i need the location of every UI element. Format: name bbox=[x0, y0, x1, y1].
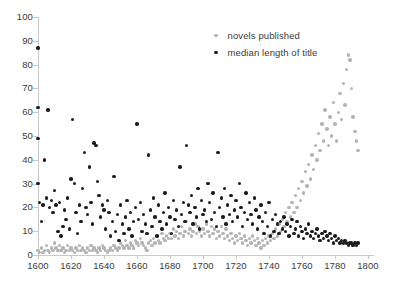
data-point bbox=[315, 227, 318, 230]
data-point bbox=[71, 118, 74, 121]
data-point bbox=[76, 232, 79, 235]
data-point bbox=[185, 144, 188, 147]
y-tick-70 bbox=[33, 88, 38, 89]
data-point bbox=[48, 206, 51, 209]
data-point bbox=[266, 241, 269, 244]
data-point bbox=[193, 206, 196, 209]
data-point bbox=[83, 151, 86, 154]
data-point bbox=[196, 187, 199, 190]
data-point bbox=[221, 232, 224, 235]
data-point bbox=[117, 239, 120, 242]
legend-item-median-length-of-title[interactable]: median length of title bbox=[214, 44, 317, 61]
data-point bbox=[84, 251, 87, 254]
data-point bbox=[160, 227, 163, 230]
data-point bbox=[297, 234, 300, 237]
data-point bbox=[180, 213, 183, 216]
data-point bbox=[238, 182, 241, 185]
data-point bbox=[254, 208, 257, 211]
data-point bbox=[130, 234, 133, 237]
x-tick-1640 bbox=[104, 255, 105, 259]
data-point bbox=[158, 241, 161, 244]
data-point bbox=[251, 234, 254, 237]
data-point bbox=[323, 108, 326, 111]
data-point bbox=[45, 244, 48, 247]
legend-swatch-novels-published bbox=[214, 34, 218, 38]
data-point bbox=[330, 134, 333, 137]
data-point bbox=[201, 213, 204, 216]
data-point bbox=[203, 208, 206, 211]
data-point bbox=[328, 115, 331, 118]
x-axis-line bbox=[38, 255, 374, 256]
data-point bbox=[246, 218, 249, 221]
data-point bbox=[89, 201, 92, 204]
data-point bbox=[241, 225, 244, 228]
data-point bbox=[200, 199, 203, 202]
data-point bbox=[147, 153, 150, 156]
data-point bbox=[69, 177, 72, 180]
data-point bbox=[251, 222, 254, 225]
data-point bbox=[104, 227, 107, 230]
data-point bbox=[41, 203, 44, 206]
data-point bbox=[157, 203, 160, 206]
data-point bbox=[340, 118, 343, 121]
data-point bbox=[116, 213, 119, 216]
data-point bbox=[101, 203, 104, 206]
data-point bbox=[221, 215, 224, 218]
data-point bbox=[177, 225, 180, 228]
data-point bbox=[351, 115, 354, 118]
data-point bbox=[309, 177, 312, 180]
data-point bbox=[78, 203, 81, 206]
x-tick-1660 bbox=[137, 255, 138, 259]
y-axis-label-0: 0 bbox=[5, 250, 33, 260]
legend-label-novels-published: novels published bbox=[228, 30, 300, 41]
data-point bbox=[163, 191, 166, 194]
x-axis-label-1800: 1800 bbox=[348, 261, 388, 271]
data-point bbox=[150, 225, 153, 228]
data-point bbox=[66, 196, 69, 199]
y-axis-label-10: 10 bbox=[5, 226, 33, 236]
data-point bbox=[233, 208, 236, 211]
data-point bbox=[295, 206, 298, 209]
data-point bbox=[211, 191, 214, 194]
data-point bbox=[224, 222, 227, 225]
data-point bbox=[310, 153, 313, 156]
data-point bbox=[96, 180, 99, 183]
data-point bbox=[122, 232, 125, 235]
data-point bbox=[220, 196, 223, 199]
data-point bbox=[153, 241, 156, 244]
x-tick-1740 bbox=[269, 255, 270, 259]
data-point bbox=[178, 165, 181, 168]
y-tick-10 bbox=[33, 231, 38, 232]
data-point bbox=[243, 234, 246, 237]
data-point bbox=[269, 234, 272, 237]
data-point bbox=[333, 122, 336, 125]
data-point bbox=[167, 206, 170, 209]
data-point bbox=[45, 196, 48, 199]
data-point bbox=[261, 220, 264, 223]
data-point bbox=[224, 227, 227, 230]
data-point bbox=[259, 203, 262, 206]
data-point bbox=[79, 220, 82, 223]
data-point bbox=[107, 211, 110, 214]
data-point bbox=[168, 215, 171, 218]
data-point bbox=[53, 189, 56, 192]
data-point bbox=[226, 203, 229, 206]
data-point bbox=[236, 215, 239, 218]
data-point bbox=[56, 230, 59, 233]
data-point bbox=[162, 211, 165, 214]
data-point bbox=[149, 239, 152, 242]
data-point bbox=[294, 194, 297, 197]
data-point bbox=[210, 218, 213, 221]
data-point bbox=[267, 201, 270, 204]
data-point bbox=[314, 144, 317, 147]
data-point bbox=[350, 87, 353, 90]
data-point bbox=[182, 201, 185, 204]
legend-item-novels-published[interactable]: novels published bbox=[214, 27, 317, 44]
data-point bbox=[305, 184, 308, 187]
data-point bbox=[338, 92, 341, 95]
data-point bbox=[353, 130, 356, 133]
data-point bbox=[129, 211, 132, 214]
data-point bbox=[264, 211, 267, 214]
data-point bbox=[356, 241, 359, 244]
data-point bbox=[158, 220, 161, 223]
